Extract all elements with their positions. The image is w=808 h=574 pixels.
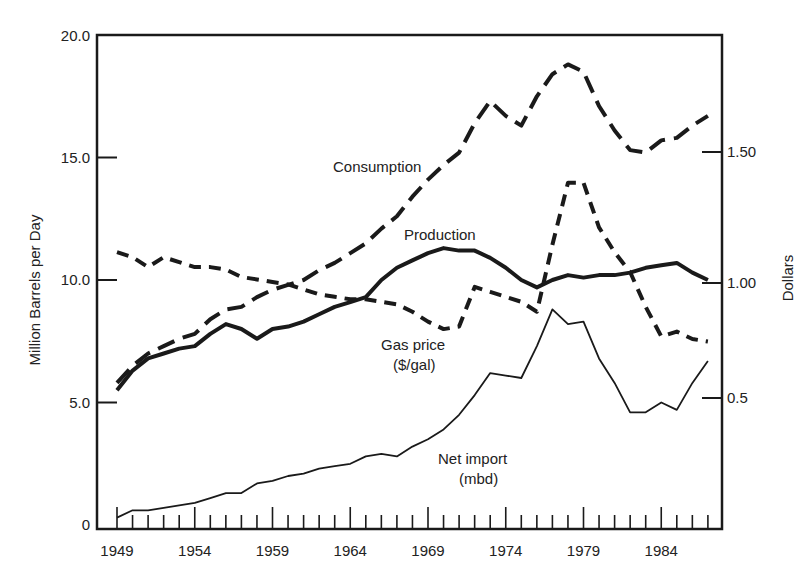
production-label: Production bbox=[404, 226, 476, 243]
x-tick-label: 1964 bbox=[334, 542, 367, 559]
right-tick-label: 0.5 bbox=[727, 389, 748, 406]
x-tick-label: 1979 bbox=[567, 542, 600, 559]
x-tick-label: 1949 bbox=[100, 542, 133, 559]
left-tick-label: 0 bbox=[82, 516, 90, 533]
plot-frame bbox=[97, 35, 722, 529]
left-y-axis: 05.010.015.020.0 bbox=[61, 27, 117, 533]
energy-line-chart: 05.010.015.020.0 0.51.001.50 19491954195… bbox=[0, 0, 808, 574]
consumption-label: Consumption bbox=[333, 158, 421, 175]
left-tick-label: 15.0 bbox=[61, 149, 90, 166]
gas-price-unit-label: ($/gal) bbox=[393, 356, 436, 373]
x-tick-label: 1959 bbox=[256, 542, 289, 559]
right-axis-title: Dollars bbox=[779, 255, 796, 302]
right-tick-label: 1.50 bbox=[727, 143, 756, 160]
x-tick-label: 1969 bbox=[411, 542, 444, 559]
left-tick-label: 20.0 bbox=[61, 27, 90, 44]
x-axis: 19491954195919641969197419791984 bbox=[100, 507, 708, 559]
gas-price-label: Gas price bbox=[381, 336, 445, 353]
left-axis-title: Million Barrels per Day bbox=[26, 214, 43, 365]
left-tick-label: 5.0 bbox=[69, 394, 90, 411]
right-tick-label: 1.00 bbox=[727, 274, 756, 291]
left-tick-label: 10.0 bbox=[61, 271, 90, 288]
net-import-unit-label: (mbd) bbox=[459, 470, 498, 487]
x-tick-label: 1974 bbox=[489, 542, 522, 559]
series-layer bbox=[117, 64, 708, 517]
x-tick-label: 1984 bbox=[645, 542, 678, 559]
right-y-axis: 0.51.001.50 bbox=[702, 143, 756, 406]
net-import-label: Net import bbox=[438, 450, 508, 467]
x-tick-label: 1954 bbox=[178, 542, 211, 559]
